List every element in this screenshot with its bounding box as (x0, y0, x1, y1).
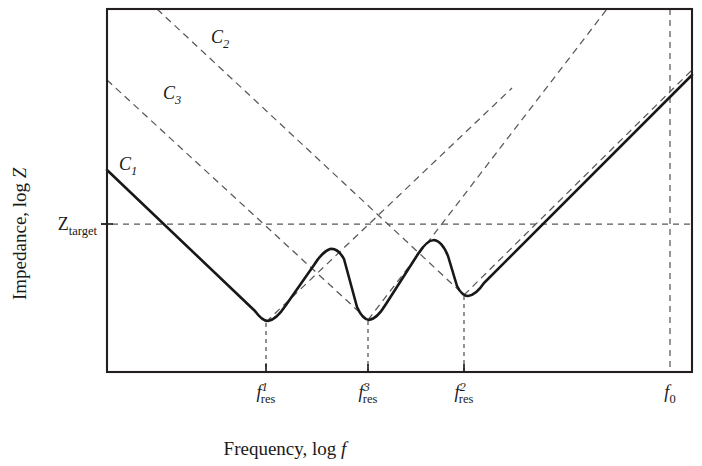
curve-label-c2-sub: 2 (223, 37, 229, 51)
z-target-sub: target (69, 224, 98, 238)
curve-label-c3: C3 (163, 83, 181, 107)
x-axis-title-variable: f (341, 438, 349, 459)
asymptote-c3 (107, 80, 368, 320)
z-target-base: Z (58, 214, 69, 234)
curve-label-c1: C1 (119, 154, 137, 178)
impedance-plot: Impedance, log Z Frequency, log f (0, 0, 702, 466)
x-tick-label-fres3-sub: res (363, 392, 378, 406)
impedance-curve (107, 75, 692, 321)
figure-page: Impedance, log Z Frequency, log f (0, 0, 702, 466)
x-tick-label-fres2-sub: res (459, 392, 474, 406)
y-axis-title-text: Impedance, log (9, 178, 30, 300)
asymptote-l3 (368, 9, 607, 320)
x-tick-label-fres1: f1res (257, 380, 276, 406)
y-axis-title: Impedance, log Z (9, 167, 30, 300)
x-tick-label-fres3: f3res (359, 380, 378, 406)
plot-frame (107, 9, 692, 372)
curve-label-c3-sub: 3 (174, 93, 181, 107)
asymptote-l1 (266, 88, 512, 322)
x-axis-title: Frequency, log f (224, 438, 350, 459)
y-axis-title-variable: Z (9, 167, 30, 178)
x-tick-label-fres2: f2res (455, 380, 474, 406)
x-tick-label-fres1-sub: res (261, 392, 276, 406)
asymptote-l2 (464, 70, 692, 295)
curve-label-c1-sub: 1 (131, 164, 137, 178)
x-marker-label-f0: f0 (664, 382, 675, 406)
x-marker-label-f0-sub: 0 (669, 392, 675, 406)
y-reference-label-z-target: Ztarget (58, 214, 98, 238)
curve-label-c2: C2 (211, 27, 229, 51)
x-axis-title-text: Frequency, log (224, 438, 342, 459)
